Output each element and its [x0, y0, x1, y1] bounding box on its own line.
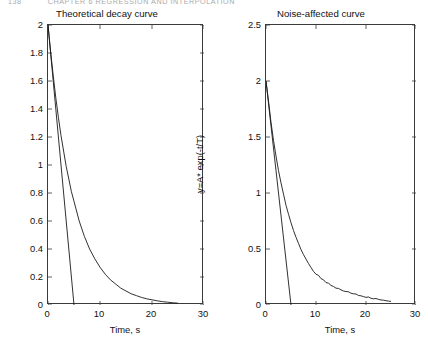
- data-series-line: [266, 81, 391, 301]
- x-tick-label: 10: [94, 308, 104, 319]
- y-tick-label: 0.8: [2, 187, 43, 198]
- y-tick-label: 1: [2, 159, 43, 170]
- panel-title-noise: Noise-affected curve: [214, 8, 428, 19]
- x-tick-label: 20: [146, 308, 156, 319]
- y-tick-label: 1.8: [2, 47, 43, 58]
- panel-theoretical-decay: Theoretical decay curve 00.20.40.60.811.…: [0, 6, 214, 343]
- x-tick-label: 0: [44, 308, 49, 319]
- y-tick-label: 1.5: [220, 131, 261, 142]
- y-axis-label: y=A* exp(-t/T): [194, 135, 205, 193]
- y-tick-label: 1.2: [2, 131, 43, 142]
- plot-area-noise: [265, 24, 415, 304]
- plot-area-theoretical: [47, 24, 203, 304]
- x-tick-label: 30: [198, 308, 208, 319]
- y-tick-label: 2: [2, 19, 43, 30]
- data-series-line: [48, 25, 178, 303]
- figure-two-panel-decay: Theoretical decay curve 00.20.40.60.811.…: [0, 0, 428, 343]
- y-tick-label: 1: [220, 187, 261, 198]
- y-tick-label: 2.5: [220, 19, 261, 30]
- y-tick-label: 0: [2, 299, 43, 310]
- plot-canvas-theoretical: [48, 25, 204, 305]
- y-tick-label: 0.4: [2, 243, 43, 254]
- figure-page: 138CHAPTER 6 REGRESSION AND INTERPOLATIO…: [0, 0, 428, 343]
- y-tick-label: 2: [220, 75, 261, 86]
- y-tick-label: 0.6: [2, 215, 43, 226]
- y-tick-label: 1.4: [2, 103, 43, 114]
- x-axis-label: Time, s: [325, 324, 355, 335]
- panel-noise-affected: Noise-affected curve 00.511.522.50102030…: [214, 6, 428, 343]
- y-tick-label: 0.5: [220, 243, 261, 254]
- x-tick-label: 10: [310, 308, 320, 319]
- y-tick-label: 0: [220, 299, 261, 310]
- plot-canvas-noise: [266, 25, 416, 305]
- x-axis-label: Time, s: [110, 324, 140, 335]
- panel-title-theoretical: Theoretical decay curve: [0, 8, 214, 19]
- x-tick-label: 20: [360, 308, 370, 319]
- x-tick-label: 30: [410, 308, 420, 319]
- x-tick-label: 0: [262, 308, 267, 319]
- y-tick-label: 1.6: [2, 75, 43, 86]
- y-tick-label: 0.2: [2, 271, 43, 282]
